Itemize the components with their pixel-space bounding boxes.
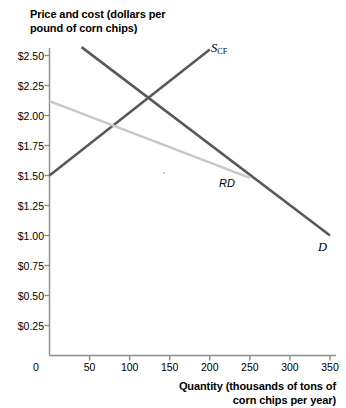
series-label-d: D xyxy=(318,240,327,255)
x-axis-tick-label: 350 xyxy=(310,362,346,372)
y-axis-tick-label: $0.50 xyxy=(0,291,44,301)
series-label-scf-subscript: CF xyxy=(217,47,227,56)
x-axis-title-line-1: Quantity (thousands of tons of xyxy=(36,379,336,393)
y-axis-tick-label: $2.25 xyxy=(0,81,44,91)
y-axis-tick-label: $2.00 xyxy=(0,111,44,121)
plot-area: $0.25$0.50$0.75$1.00$1.25$1.50$1.75$2.00… xyxy=(0,0,346,408)
y-axis-tick-label: $0.75 xyxy=(0,261,44,271)
x-axis-tick-marks xyxy=(90,356,330,361)
y-axis-tick-label: $1.75 xyxy=(0,141,44,151)
series-line-d xyxy=(82,47,330,235)
x-axis-tick-label: 250 xyxy=(230,362,270,372)
origin-tick-label: 0 xyxy=(29,362,43,372)
y-axis-tick-label: $1.00 xyxy=(0,231,44,241)
x-axis-tick-label: 150 xyxy=(150,362,190,372)
y-axis-tick-label: $0.25 xyxy=(0,321,44,331)
x-axis-tick-label: 200 xyxy=(190,362,230,372)
series-label-scf: SCF xyxy=(211,41,227,56)
x-axis-title: Quantity (thousands of tons of corn chip… xyxy=(36,379,336,407)
x-axis-tick-label: 100 xyxy=(110,362,150,372)
x-axis-tick-label: 300 xyxy=(270,362,310,372)
y-axis-tick-label: $1.25 xyxy=(0,201,44,211)
plot-svg xyxy=(0,0,346,408)
y-axis-tick-label: $2.50 xyxy=(0,51,44,61)
series-line-rd xyxy=(50,101,250,178)
data-series-group xyxy=(50,47,331,235)
series-line-s-cf xyxy=(50,50,210,176)
stray-mark xyxy=(163,172,165,174)
x-axis-tick-label: 50 xyxy=(70,362,110,372)
y-axis-tick-marks xyxy=(45,56,50,326)
x-axis-title-line-2: corn chips per year) xyxy=(36,393,336,407)
chart-container: Price and cost (dollars per pound of cor… xyxy=(0,0,346,408)
y-axis-tick-label: $1.50 xyxy=(0,171,44,181)
series-label-rd: RD xyxy=(219,177,235,189)
